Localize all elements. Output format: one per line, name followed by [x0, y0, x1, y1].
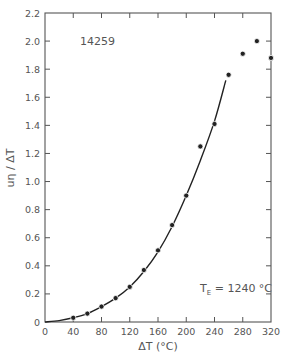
y-tick-label: 0.8 — [25, 204, 40, 215]
fitted-curve — [45, 80, 226, 322]
data-point — [99, 304, 104, 309]
data-point — [226, 72, 231, 77]
data-points — [71, 38, 274, 320]
data-point — [71, 315, 76, 320]
data-point — [85, 311, 90, 316]
chart-container: 00.20.40.60.81.01.21.41.61.82.02.2 04080… — [0, 0, 287, 359]
y-axis-ticks: 00.20.40.60.81.01.21.41.61.82.02.2 — [25, 8, 271, 328]
y-tick-label: 2.2 — [25, 8, 40, 19]
x-tick-label: 200 — [177, 326, 195, 337]
data-point — [184, 193, 189, 198]
y-tick-label: 1.8 — [25, 64, 40, 75]
data-point — [127, 284, 132, 289]
x-tick-label: 240 — [205, 326, 223, 337]
data-point — [198, 144, 203, 149]
y-tick-label: 2.0 — [25, 36, 40, 47]
x-tick-label: 40 — [67, 326, 79, 337]
temperature-annotation: TE = 1240 °C — [199, 282, 272, 297]
scatter-plot: 00.20.40.60.81.01.21.41.61.82.02.2 04080… — [0, 0, 287, 359]
data-point — [155, 248, 160, 253]
x-tick-label: 80 — [95, 326, 107, 337]
x-tick-label: 120 — [121, 326, 139, 337]
y-tick-label: 0.2 — [25, 288, 40, 299]
y-tick-label: 0.4 — [25, 260, 40, 271]
data-point — [268, 55, 273, 60]
y-tick-label: 1.0 — [25, 176, 40, 187]
x-tick-label: 0 — [42, 326, 48, 337]
sample-label: 14259 — [80, 35, 115, 48]
x-tick-label: 320 — [262, 326, 280, 337]
x-axis-title: ΔT (°C) — [138, 340, 178, 353]
data-point — [141, 267, 146, 272]
x-tick-label: 160 — [149, 326, 167, 337]
data-point — [254, 38, 259, 43]
y-tick-label: 0 — [34, 317, 40, 328]
data-point — [170, 222, 175, 227]
plot-frame — [45, 13, 271, 322]
y-tick-label: 0.6 — [25, 232, 40, 243]
y-tick-label: 1.2 — [25, 148, 40, 159]
x-tick-label: 280 — [234, 326, 252, 337]
data-point — [240, 51, 245, 56]
data-point — [113, 296, 118, 301]
y-tick-label: 1.4 — [25, 120, 40, 131]
y-tick-label: 1.6 — [25, 92, 40, 103]
annotation-rest: = 1240 °C — [211, 282, 272, 295]
data-point — [212, 121, 217, 126]
y-axis-title: uη / ΔT — [4, 148, 17, 187]
